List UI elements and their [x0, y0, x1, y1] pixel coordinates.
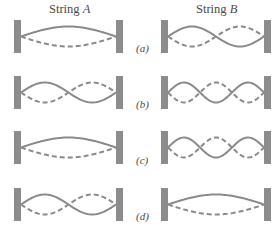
wall-right-icon — [264, 131, 271, 164]
wall-right-icon — [264, 76, 271, 109]
wall-right-icon — [116, 131, 123, 164]
wall-right-icon — [264, 20, 271, 53]
string-a-dashed-wave — [21, 148, 116, 158]
wall-left-icon — [14, 131, 21, 164]
string-a-dashed-wave — [21, 83, 116, 103]
standing-wave-diagram — [0, 0, 277, 232]
wall-left-icon — [14, 76, 21, 109]
string-b-solid-wave — [168, 138, 264, 158]
wall-left-icon — [161, 76, 168, 109]
string-b-dashed-wave — [168, 27, 264, 47]
string-b-solid-wave — [168, 195, 264, 205]
wall-left-icon — [14, 20, 21, 53]
string-b-dashed-wave — [168, 205, 264, 215]
wall-left-icon — [161, 131, 168, 164]
wall-right-icon — [264, 188, 271, 221]
wall-right-icon — [116, 76, 123, 109]
string-a-dashed-wave — [21, 37, 116, 47]
wall-left-icon — [161, 20, 168, 53]
string-b-dashed-wave — [168, 83, 264, 103]
string-a-solid-wave — [21, 138, 116, 148]
wall-left-icon — [14, 188, 21, 221]
string-a-dashed-wave — [21, 195, 116, 215]
string-b-dashed-wave — [168, 138, 264, 158]
wall-left-icon — [161, 188, 168, 221]
wall-right-icon — [116, 20, 123, 53]
wall-right-icon — [116, 188, 123, 221]
string-a-solid-wave — [21, 27, 116, 37]
string-b-solid-wave — [168, 83, 264, 103]
